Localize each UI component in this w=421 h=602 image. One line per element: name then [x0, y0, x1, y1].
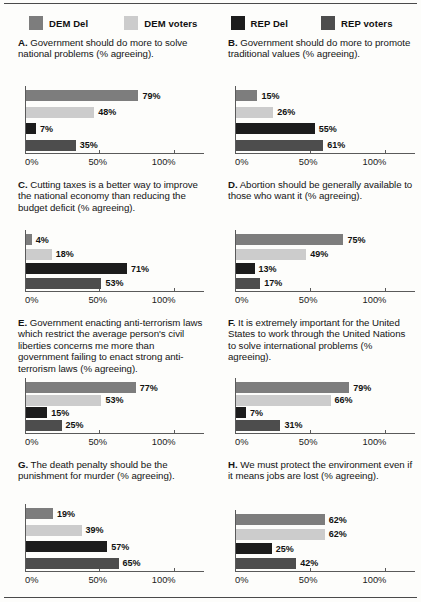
bar-row: 42%: [236, 558, 415, 569]
bar-dem-del: [26, 234, 32, 245]
bar-value-label: 35%: [80, 140, 98, 150]
x-axis-line: [235, 291, 415, 292]
bar-row: 4%: [26, 234, 204, 245]
bar-rep-del: [236, 263, 255, 274]
bar-dem-del: [236, 514, 325, 525]
bar-dem-del: [236, 234, 343, 245]
bar-rep-voters: [236, 140, 323, 151]
panel-title-b: B. Government should do more to promote …: [228, 36, 415, 60]
x-axis-label-0: 0%: [25, 437, 38, 447]
x-axis-label-100: 100%: [152, 437, 176, 447]
bar-value-label: 79%: [142, 91, 160, 101]
bar-dem-del: [236, 382, 349, 393]
chart-h: 62%62%25%42%0%50%100%: [228, 510, 415, 590]
x-axis-label-100: 100%: [363, 575, 387, 585]
plot-area-c: 4%18%71%53%: [18, 230, 204, 292]
x-axis-line: [235, 571, 415, 572]
plot-area-a: 79%48%7%35%: [18, 86, 204, 154]
panel-letter-c: C.: [18, 179, 28, 190]
x-axis-label-0: 0%: [235, 295, 248, 305]
x-axis-labels: 0%50%100%: [18, 295, 204, 309]
x-axis-labels: 0%50%100%: [18, 575, 204, 589]
panel-title-text-h: We must protect the environment even if …: [228, 459, 412, 481]
bar-value-label: 17%: [264, 278, 282, 288]
x-axis-line: [25, 291, 204, 292]
bar-value-label: 15%: [261, 91, 279, 101]
x-axis-label-50: 50%: [299, 295, 318, 305]
bar-row: 79%: [236, 382, 415, 393]
legend-swatch-dem_voters: [124, 16, 138, 30]
x-axis-label-100: 100%: [363, 295, 387, 305]
panel-letter-f: F.: [228, 317, 235, 328]
panel-title-f: F. It is extremely important for the Uni…: [228, 316, 415, 363]
chart-page: DEM DelDEM votersREP DelREP voters A. Go…: [0, 0, 421, 602]
bar-rep-del: [26, 263, 127, 274]
panel-letter-g: G.: [18, 459, 28, 470]
bar-row: 15%: [26, 407, 204, 418]
x-axis-label-100: 100%: [152, 295, 176, 305]
panel-grid: A. Government should do more to solve na…: [0, 36, 421, 596]
panel-title-a: A. Government should do more to solve na…: [18, 36, 204, 60]
panel-title-text-g: The death penalty should be the punishme…: [18, 459, 175, 481]
x-axis-labels: 0%50%100%: [228, 575, 415, 589]
bar-row: 66%: [236, 395, 415, 406]
bar-rep-del: [26, 407, 47, 418]
bar-group-e: 77%53%15%25%: [26, 382, 204, 431]
bar-rep-voters: [236, 420, 280, 431]
bar-value-label: 7%: [40, 124, 53, 134]
bar-dem-voters: [236, 249, 306, 260]
plot-area-h: 62%62%25%42%: [228, 510, 415, 572]
bar-row: 13%: [236, 263, 415, 274]
bar-row: 35%: [26, 140, 204, 151]
chart-c: 4%18%71%53%0%50%100%: [18, 230, 204, 310]
bar-value-label: 62%: [329, 515, 347, 525]
bar-row: 77%: [26, 382, 204, 393]
panel-title-text-e: Government enacting anti-terrorism laws …: [18, 317, 202, 374]
panel-f: F. It is extremely important for the Uni…: [210, 316, 421, 458]
chart-a: 79%48%7%35%0%50%100%: [18, 86, 204, 172]
legend-item-dem_voters: DEM voters: [124, 16, 197, 30]
bar-value-label: 25%: [66, 420, 84, 430]
legend-label-rep_voters: REP voters: [341, 18, 393, 29]
bar-value-label: 48%: [98, 107, 116, 117]
bar-group-c: 4%18%71%53%: [26, 234, 204, 289]
panel-title-text-d: Abortion should be generally available t…: [228, 179, 412, 201]
bar-row: 39%: [26, 525, 204, 536]
bar-value-label: 62%: [329, 529, 347, 539]
bar-value-label: 66%: [335, 395, 353, 405]
x-axis-label-100: 100%: [152, 157, 176, 167]
bar-rep-del: [26, 541, 107, 552]
bar-value-label: 13%: [259, 264, 277, 274]
panel-c: C. Cutting taxes is a better way to impr…: [0, 178, 210, 316]
bar-value-label: 7%: [250, 408, 263, 418]
x-axis-labels: 0%50%100%: [228, 157, 415, 171]
bar-value-label: 26%: [277, 107, 295, 117]
x-axis-label-0: 0%: [25, 157, 38, 167]
bar-row: 19%: [26, 508, 204, 519]
bar-row: 62%: [236, 514, 415, 525]
bar-row: 17%: [236, 278, 415, 289]
panel-letter-a: A.: [18, 37, 28, 48]
bar-dem-voters: [26, 249, 52, 260]
bar-dem-del: [26, 508, 53, 519]
bar-group-a: 79%48%7%35%: [26, 90, 204, 151]
x-axis-labels: 0%50%100%: [228, 437, 415, 451]
bar-value-label: 25%: [276, 544, 294, 554]
x-axis-label-50: 50%: [88, 295, 107, 305]
plot-area-g: 19%39%57%65%: [18, 504, 204, 572]
bar-dem-voters: [236, 395, 331, 406]
chart-f: 79%66%7%31%0%50%100%: [228, 378, 415, 452]
legend-label-dem_del: DEM Del: [49, 18, 88, 29]
bar-value-label: 15%: [51, 408, 69, 418]
legend-label-dem_voters: DEM voters: [144, 18, 197, 29]
bar-dem-del: [236, 90, 257, 101]
plot-area-b: 15%26%55%61%: [228, 86, 415, 154]
bar-row: 65%: [26, 558, 204, 569]
x-axis-label-50: 50%: [88, 157, 107, 167]
x-axis-label-100: 100%: [363, 157, 387, 167]
bar-dem-voters: [26, 525, 82, 536]
bar-rep-del: [236, 407, 246, 418]
x-axis-label-100: 100%: [363, 437, 387, 447]
legend-item-dem_del: DEM Del: [29, 16, 88, 30]
legend-label-rep_del: REP Del: [251, 18, 289, 29]
